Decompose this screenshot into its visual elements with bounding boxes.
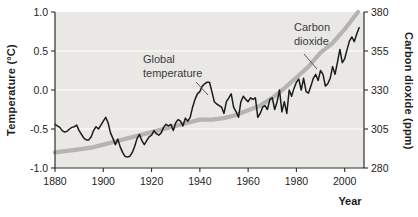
x-tick-label: 1900 [92,175,116,187]
left-tick-label: 1.0 [33,6,48,18]
right-tick-label: 330 [371,84,389,96]
x-tick-label: 1940 [188,175,212,187]
chart-canvas: 1.00.50.0-0.5-1.038035533030528018801900… [0,0,418,217]
carbon-dioxide-annotation: Carbon dioxide [294,21,330,48]
right-tick-label: 280 [371,162,389,174]
climate-figure: 1.00.50.0-0.5-1.038035533030528018801900… [0,0,418,217]
right-axis-title: Carbon dioxide (ppm) [401,32,415,148]
x-tick-label: 1920 [140,175,164,187]
x-tick-label: 1880 [43,175,67,187]
right-tick-label: 305 [371,123,389,135]
global-temperature-annotation: Global temperature [143,53,202,80]
left-tick-label: -1.0 [30,162,48,174]
left-axis-title: Temperature (°C) [5,34,19,146]
x-tick-label: 1960 [236,175,260,187]
left-tick-label: 0.0 [33,84,48,96]
left-tick-label: 0.5 [33,45,48,57]
x-tick-label: 2000 [333,175,357,187]
x-tick-label: 1980 [285,175,309,187]
right-tick-label: 380 [371,6,389,18]
right-tick-label: 355 [371,45,389,57]
carbon-dioxide-annotation-line1: Carbon [294,21,330,35]
carbon-dioxide-annotation-line2: dioxide [294,35,330,49]
global-temperature-annotation-line1: Global [143,53,202,67]
global-temperature-annotation-line2: temperature [143,67,202,81]
x-axis-title: Year [326,195,374,207]
left-tick-label: -0.5 [30,123,48,135]
